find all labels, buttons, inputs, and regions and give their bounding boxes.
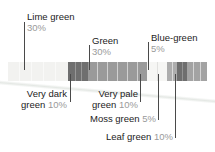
strip-segment-green	[88, 62, 148, 81]
callout-lime-green: Lime green 30%	[27, 11, 75, 33]
leader-line-blue-green	[148, 42, 149, 70]
callout-moss-green: Moss green 5%	[70, 113, 156, 124]
callout-label-green: Green	[92, 35, 118, 46]
callout-leaf-green: Leaf green 10%	[85, 131, 173, 142]
leader-line-very-dark-green	[70, 74, 71, 102]
strip-tick	[107, 62, 108, 81]
leader-line-lime-green	[24, 22, 25, 70]
callout-label-very-pale-green-line2: green	[92, 99, 116, 110]
callout-label-very-pale-green-line1: Very pale	[98, 88, 138, 99]
callout-label-blue-green: Blue-green	[151, 32, 197, 43]
strip-segment-lime-green	[8, 62, 68, 81]
callout-label-very-dark-green-line2: green	[21, 99, 45, 110]
strip-tick	[137, 62, 138, 81]
leader-line-leaf-green	[175, 74, 176, 138]
callout-very-dark-green: Very dark green 10%	[0, 88, 67, 110]
strip-tick	[182, 62, 183, 81]
strip-tick	[127, 62, 128, 81]
strip-tick	[117, 62, 118, 81]
strip-tick	[97, 62, 98, 81]
strip-tick	[31, 62, 32, 81]
callout-percent-moss-green: 5%	[142, 113, 156, 124]
callout-percent-very-dark-green: 10%	[48, 99, 67, 110]
strip-tick	[55, 62, 56, 81]
strip-tick	[172, 62, 173, 81]
callout-percent-blue-green: 5%	[151, 43, 165, 54]
callout-percent-very-pale-green: 10%	[119, 99, 138, 110]
leader-line-green	[89, 45, 90, 70]
color-distribution-chart: Lime green 30% Green 30% Blue-green 5% V…	[0, 0, 215, 152]
strip-segment-leaf-green	[187, 62, 207, 81]
callout-label-leaf-green: Leaf green	[106, 131, 151, 142]
callout-green: Green 30%	[92, 35, 118, 57]
strip-tick	[43, 62, 44, 81]
callout-percent-leaf-green: 10%	[154, 131, 173, 142]
strip-tick	[193, 62, 194, 81]
callout-label-very-dark-green-line1: Very dark	[27, 88, 67, 99]
callout-percent-green: 30%	[92, 46, 111, 57]
strip-tick	[19, 62, 20, 81]
strip-segment-moss-green	[177, 62, 187, 81]
callout-label-moss-green: Moss green	[90, 113, 140, 124]
strip-tick	[75, 62, 76, 81]
leader-line-moss-green	[158, 74, 159, 120]
callout-label-lime-green: Lime green	[27, 11, 75, 22]
callout-blue-green: Blue-green 5%	[151, 32, 197, 54]
callout-very-pale-green: Very pale green 10%	[72, 88, 138, 110]
callout-percent-lime-green: 30%	[27, 22, 46, 33]
color-strip	[8, 62, 207, 81]
strip-tick	[81, 62, 82, 81]
leader-line-very-pale-green	[140, 74, 141, 102]
strip-tick	[200, 62, 201, 81]
